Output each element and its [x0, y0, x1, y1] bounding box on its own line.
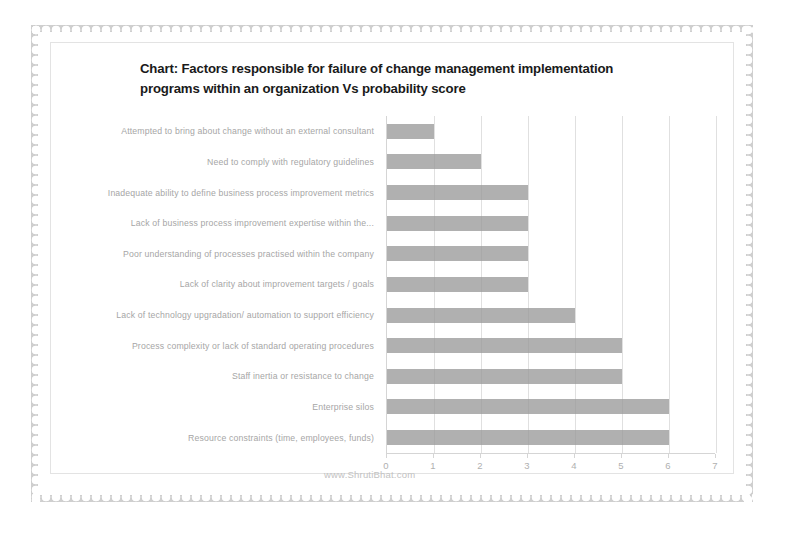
- x-tick-mark: [574, 454, 575, 458]
- category-label-row: Attempted to bring about change without …: [50, 116, 380, 147]
- x-tick-label: 5: [618, 460, 623, 471]
- bar-row: [387, 208, 715, 239]
- x-tick-mark: [668, 454, 669, 458]
- category-label-row: Inadequate ability to define business pr…: [50, 177, 380, 208]
- x-tick-mark: [527, 454, 528, 458]
- bar-series: [387, 116, 715, 453]
- chart-title-line-1: Chart: Factors responsible for failure o…: [140, 59, 670, 79]
- bar-row: [387, 147, 715, 178]
- bar[interactable]: [387, 399, 669, 414]
- bar[interactable]: [387, 277, 528, 292]
- stamp-border-frame: Chart: Factors responsible for failure o…: [38, 32, 746, 495]
- category-axis-labels: Attempted to bring about change without …: [50, 116, 380, 453]
- bar-row: [387, 300, 715, 331]
- category-label: Process complexity or lack of standard o…: [132, 341, 374, 351]
- x-tick-mark: [621, 454, 622, 458]
- x-tick-mark: [386, 454, 387, 458]
- x-tick-label: 3: [524, 460, 529, 471]
- plot-area: [386, 116, 715, 453]
- category-label-row: Lack of technology upgradation/ automati…: [50, 300, 380, 331]
- x-axis: 01234567: [386, 453, 715, 476]
- x-tick-label: 2: [477, 460, 482, 471]
- chart-card: Chart: Factors responsible for failure o…: [38, 32, 746, 495]
- bar[interactable]: [387, 154, 481, 169]
- category-label: Lack of business process improvement exp…: [131, 218, 374, 228]
- bar[interactable]: [387, 216, 528, 231]
- category-label: Resource constraints (time, employees, f…: [188, 433, 374, 443]
- x-tick-label: 7: [712, 460, 717, 471]
- category-label: Staff inertia or resistance to change: [232, 371, 374, 381]
- bar[interactable]: [387, 369, 622, 384]
- bar[interactable]: [387, 124, 434, 139]
- bar[interactable]: [387, 185, 528, 200]
- category-label: Lack of clarity about improvement target…: [180, 279, 374, 289]
- x-tick-mark: [480, 454, 481, 458]
- category-label-row: Lack of clarity about improvement target…: [50, 269, 380, 300]
- bar-row: [387, 116, 715, 147]
- category-label: Need to comply with regulatory guideline…: [207, 157, 374, 167]
- category-label-row: Enterprise silos: [50, 392, 380, 423]
- category-label-row: Need to comply with regulatory guideline…: [50, 147, 380, 178]
- bar-row: [387, 422, 715, 453]
- bar-row: [387, 330, 715, 361]
- bar-row: [387, 239, 715, 270]
- category-label-row: Staff inertia or resistance to change: [50, 361, 380, 392]
- category-label: Attempted to bring about change without …: [121, 126, 374, 136]
- bar[interactable]: [387, 430, 669, 445]
- x-tick-label: 4: [571, 460, 576, 471]
- category-label-row: Lack of business process improvement exp…: [50, 208, 380, 239]
- watermark-text: www.ShrutiBhat.com: [324, 469, 415, 480]
- x-tick-label: 1: [430, 460, 435, 471]
- category-label-row: Process complexity or lack of standard o…: [50, 330, 380, 361]
- category-label: Poor understanding of processes practise…: [123, 249, 374, 259]
- bar-row: [387, 361, 715, 392]
- bar[interactable]: [387, 246, 528, 261]
- bar-row: [387, 392, 715, 423]
- gridline: [716, 116, 717, 453]
- category-label: Inadequate ability to define business pr…: [108, 188, 374, 198]
- bar-row: [387, 177, 715, 208]
- chart-title-line-2: programs within an organization Vs proba…: [140, 79, 670, 99]
- chart-title: Chart: Factors responsible for failure o…: [140, 59, 670, 100]
- bar-row: [387, 269, 715, 300]
- x-tick-label: 6: [665, 460, 670, 471]
- category-label: Lack of technology upgradation/ automati…: [116, 310, 374, 320]
- bar[interactable]: [387, 308, 575, 323]
- bar[interactable]: [387, 338, 622, 353]
- x-tick-mark: [715, 454, 716, 458]
- category-label-row: Resource constraints (time, employees, f…: [50, 422, 380, 453]
- x-tick-mark: [433, 454, 434, 458]
- category-label: Enterprise silos: [312, 402, 374, 412]
- category-label-row: Poor understanding of processes practise…: [50, 239, 380, 270]
